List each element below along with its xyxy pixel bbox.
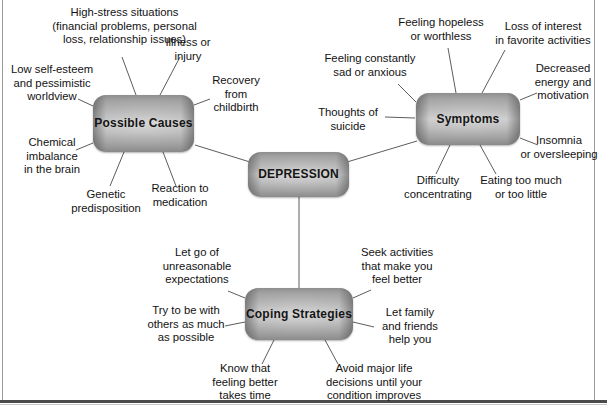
leaf-know-feeling-better: Know that feeling better takes time — [200, 362, 290, 403]
link-causes-genetic — [110, 152, 124, 186]
leaf-thoughts-of-suicide: Thoughts of suicide — [308, 106, 388, 133]
leaf-illness-or-injury: Illness or injury — [155, 36, 221, 63]
leaf-let-go-expectations: Let go of unreasonable expectations — [152, 246, 242, 287]
leaf-feeling-hopeless: Feeling hopeless or worthless — [386, 16, 496, 43]
leaf-be-with-others: Try to be with others as much as possibl… — [140, 304, 232, 345]
link-coping-seek-activities — [353, 290, 371, 298]
link-symptoms-thoughts — [385, 117, 415, 118]
link-depression-to-causes — [195, 145, 250, 162]
leaf-let-family-help: Let family and friends help you — [372, 306, 448, 347]
leaf-chemical-imbalance: Chemical imbalance in the brain — [10, 136, 94, 177]
link-symptoms-eating — [480, 145, 496, 174]
node-coping-strategies[interactable]: Coping Strategies — [245, 288, 353, 340]
leaf-loss-of-interest: Loss of interest in favorite activities — [483, 20, 603, 47]
leaf-reaction-to-medication: Reaction to medication — [142, 182, 218, 209]
node-symptoms-label: Symptoms — [437, 112, 500, 126]
node-depression-label: DEPRESSION — [258, 167, 339, 181]
leaf-recovery-from-childbirth: Recovery from childbirth — [200, 74, 272, 115]
node-coping-strategies-label: Coping Strategies — [246, 307, 352, 321]
link-symptoms-difficulty — [436, 145, 450, 174]
link-symptoms-loss-interest — [482, 50, 505, 93]
link-depression-to-symptoms — [347, 141, 417, 162]
mind-map-canvas: DEPRESSION Possible Causes Symptoms Copi… — [0, 0, 607, 417]
node-depression[interactable]: DEPRESSION — [248, 152, 349, 197]
leaf-decreased-energy: Decreased energy and motivation — [523, 62, 603, 103]
leaf-avoid-major-decisions: Avoid major life decisions until your co… — [312, 362, 436, 403]
link-coping-let-go — [228, 291, 245, 298]
link-coping-know-that — [262, 340, 274, 364]
leaf-insomnia-oversleeping: Insomnia or oversleeping — [512, 134, 606, 161]
link-symptoms-hopeless — [448, 48, 456, 93]
link-causes-high-stress — [122, 57, 136, 95]
leaf-seek-activities: Seek activities that make you feel bette… — [347, 246, 447, 287]
leaf-feeling-sad-anxious: Feeling constantly sad or anxious — [312, 52, 428, 79]
link-causes-reaction — [163, 152, 176, 186]
link-symptoms-sad-anxious — [398, 84, 416, 102]
node-possible-causes-label: Possible Causes — [94, 116, 192, 130]
leaf-genetic-predisposition: Genetic predisposition — [58, 188, 154, 215]
leaf-low-self-esteem: Low self-esteem and pessimistic worldvie… — [2, 63, 102, 104]
leaf-difficulty-concentrating: Difficulty concentrating — [397, 174, 479, 201]
link-coping-let-family — [353, 322, 374, 327]
node-symptoms[interactable]: Symptoms — [416, 93, 520, 145]
leaf-eating-too-much-or-little: Eating too much or too little — [468, 174, 574, 201]
node-possible-causes[interactable]: Possible Causes — [93, 95, 194, 152]
link-coping-avoid-major — [325, 340, 338, 364]
